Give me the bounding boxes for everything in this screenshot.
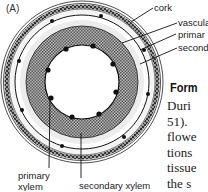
label-vascular-cambium: vascula bbox=[178, 17, 208, 28]
body-line: tissue bbox=[167, 160, 197, 176]
label-secondary-xylem: secondary xylem bbox=[79, 180, 150, 191]
body-text: Duri 51). flowe tions tissue the s bbox=[167, 98, 197, 191]
body-line: tions bbox=[167, 145, 197, 161]
section-heading: Form bbox=[170, 80, 198, 95]
label-primary-xylem-line2: xylem bbox=[18, 181, 50, 191]
label-primary-phloem: primar bbox=[178, 29, 205, 40]
label-secondary-phloem: second bbox=[178, 42, 208, 53]
label-primary-xylem-line1: primary bbox=[18, 170, 50, 181]
panel-label: (A) bbox=[6, 3, 19, 14]
body-line: the s bbox=[167, 176, 197, 192]
body-line: flowe bbox=[167, 129, 197, 145]
body-line: Duri bbox=[167, 98, 197, 114]
body-line: 51). bbox=[167, 114, 197, 130]
label-primary-xylem: primary xylem bbox=[18, 170, 50, 191]
label-cork: cork bbox=[154, 2, 172, 13]
